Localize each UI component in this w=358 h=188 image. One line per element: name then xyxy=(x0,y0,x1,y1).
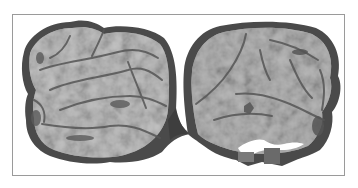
left-lobe xyxy=(22,20,190,163)
fragment xyxy=(264,148,280,164)
fragment xyxy=(238,152,254,162)
specimen-photo xyxy=(0,0,358,188)
right-lobe xyxy=(183,22,340,166)
